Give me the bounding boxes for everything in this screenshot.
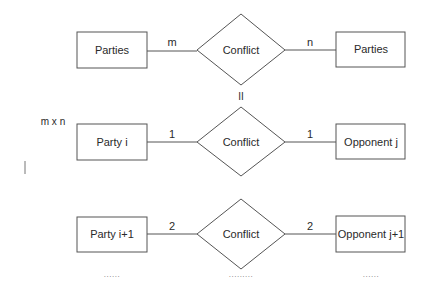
multiplier-label: m x n — [41, 116, 65, 127]
cardinality-n: n — [307, 36, 313, 48]
row-3: Party i+1 Conflict Opponent j+1 2 2 — [77, 199, 405, 269]
cardinality-left-row-2: 1 — [169, 128, 175, 140]
cardinality-right-row-2: 1 — [307, 128, 313, 140]
continuation-middle: ......... — [229, 270, 254, 279]
relationship-conflict-row-3-label: Conflict — [223, 228, 260, 240]
entity-parties-left-label: Parties — [95, 44, 130, 56]
entity-party-i-plus-1-label: Party i+1 — [90, 228, 134, 240]
cardinality-left-row-3: 2 — [169, 220, 175, 232]
row-1: Parties Conflict Parties m n — [77, 14, 405, 85]
er-diagram: Parties Conflict Parties m n II m x n Pa… — [0, 0, 427, 286]
cardinality-right-row-3: 2 — [307, 220, 313, 232]
relationship-conflict-row-1-label: Conflict — [223, 44, 260, 56]
entity-opponent-j-label: Opponent j — [344, 136, 398, 148]
entity-opponent-j-plus-1-label: Opponent j+1 — [338, 228, 404, 240]
entity-party-i-label: Party i — [96, 136, 127, 148]
cardinality-m: m — [167, 36, 176, 48]
row-2: Party i Conflict Opponent j 1 1 — [77, 107, 405, 176]
continuation-left: ...... — [104, 270, 120, 279]
continuation-right: ...... — [363, 270, 379, 279]
entity-parties-right-label: Parties — [354, 43, 389, 55]
relationship-conflict-row-2-label: Conflict — [223, 136, 260, 148]
equivalence-symbol: II — [238, 91, 244, 102]
